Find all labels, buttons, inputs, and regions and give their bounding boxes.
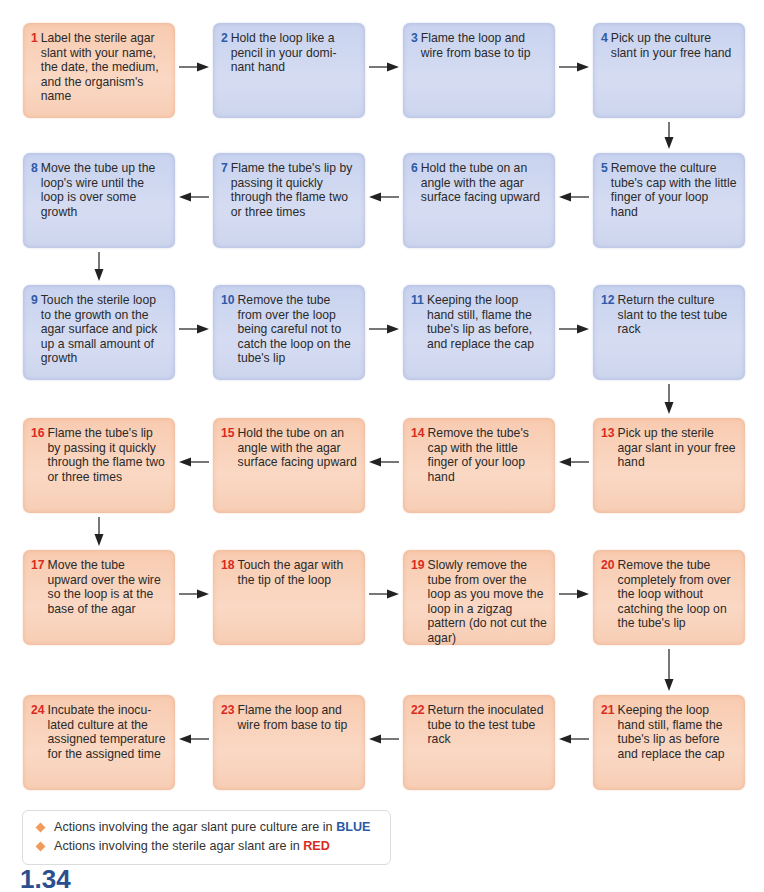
arrow-down-icon: [664, 122, 674, 149]
step-box-12: 12Return the culture slant to the test t…: [593, 285, 745, 380]
arrow-left-icon: [179, 457, 209, 467]
arrow-right-icon: [179, 589, 209, 599]
arrow-down-icon: [94, 517, 104, 546]
step-box-20: 20Remove the tube completely from over t…: [593, 550, 745, 645]
arrow-left-icon: [179, 192, 209, 202]
step-text: Keeping the loop hand still, flame the t…: [427, 293, 547, 351]
step-text: Return the culture slant to the test tub…: [618, 293, 737, 337]
legend-red-text: Actions involving the sterile agar slant…: [54, 837, 330, 856]
step-number: 11: [411, 293, 424, 308]
arrow-left-icon: [559, 457, 589, 467]
step-number: 1: [31, 31, 38, 46]
arrow-right-icon: [559, 324, 589, 334]
step-text: Keeping the loop hand still, flame the t…: [618, 703, 737, 761]
diamond-bullet-icon: [36, 842, 46, 852]
step-number: 8: [31, 161, 38, 176]
legend-blue-prefix: Actions involving the agar slant pure cu…: [54, 820, 333, 834]
arrow-right-icon: [559, 62, 589, 72]
step-box-2: 2Hold the loop like a pencil in your dom…: [213, 23, 365, 118]
step-box-21: 21Keeping the loop hand still, flame the…: [593, 695, 745, 790]
step-box-7: 7Flame the tube's lip by passing it quic…: [213, 153, 365, 248]
step-number: 2: [221, 31, 228, 46]
step-text: Label the sterile agar slant with your n…: [41, 31, 167, 104]
arrow-down-icon: [664, 649, 674, 691]
step-number: 9: [31, 293, 38, 308]
arrow-right-icon: [369, 589, 399, 599]
arrow-down-icon: [94, 252, 104, 281]
step-text: Flame the loop and wire from base to tip: [238, 703, 357, 732]
step-text: Remove the tube from over the loop being…: [238, 293, 357, 366]
step-box-16: 16Flame the tube's lip by passing it qui…: [23, 418, 175, 513]
legend-blue-text: Actions involving the agar slant pure cu…: [54, 818, 370, 837]
step-number: 24: [31, 703, 45, 718]
step-number: 16: [31, 426, 45, 441]
arrow-right-icon: [369, 62, 399, 72]
step-text: Move the tube upward over the wire so th…: [48, 558, 167, 616]
step-number: 6: [411, 161, 418, 176]
step-number: 7: [221, 161, 228, 176]
step-number: 22: [411, 703, 425, 718]
legend: Actions involving the agar slant pure cu…: [22, 810, 391, 865]
legend-row-red: Actions involving the sterile agar slant…: [37, 837, 390, 856]
step-number: 20: [601, 558, 615, 573]
arrow-left-icon: [369, 192, 399, 202]
step-number: 21: [601, 703, 615, 718]
legend-row-blue: Actions involving the agar slant pure cu…: [37, 818, 390, 837]
step-number: 17: [31, 558, 45, 573]
step-number: 18: [221, 558, 235, 573]
arrow-left-icon: [559, 734, 589, 744]
step-text: Remove the culture tube's cap with the l…: [611, 161, 737, 219]
legend-blue-keyword: BLUE: [336, 820, 370, 834]
step-text: Return the inoculated tube to the test t…: [428, 703, 547, 747]
step-number: 3: [411, 31, 418, 46]
figure-label: 1.34: [20, 866, 71, 892]
step-text: Flame the tube's lip by passing it quick…: [231, 161, 357, 219]
step-box-8: 8Move the tube up the loop's wire until …: [23, 153, 175, 248]
step-text: Hold the tube on an angle with the agar …: [421, 161, 547, 205]
step-number: 23: [221, 703, 235, 718]
step-number: 15: [221, 426, 235, 441]
step-text: Move the tube up the loop's wire until t…: [41, 161, 167, 219]
arrow-left-icon: [179, 734, 209, 744]
step-box-6: 6Hold the tube on an angle with the agar…: [403, 153, 555, 248]
step-text: Incubate the inocu-lated culture at the …: [48, 703, 167, 761]
step-number: 13: [601, 426, 615, 441]
step-box-14: 14Remove the tube's cap with the little …: [403, 418, 555, 513]
step-text: Pick up the sterile agar slant in your f…: [618, 426, 737, 470]
step-box-1: 1Label the sterile agar slant with your …: [23, 23, 175, 118]
legend-red-keyword: RED: [303, 839, 330, 853]
step-text: Remove the tube's cap with the little fi…: [428, 426, 547, 484]
arrow-right-icon: [369, 324, 399, 334]
step-text: Touch the sterile loop to the growth on …: [41, 293, 167, 366]
step-box-24: 24Incubate the inocu-lated culture at th…: [23, 695, 175, 790]
step-box-18: 18Touch the agar with the tip of the loo…: [213, 550, 365, 645]
legend-red-prefix: Actions involving the sterile agar slant…: [54, 839, 300, 853]
step-box-19: 19Slowly remove the tube from over the l…: [403, 550, 555, 645]
step-number: 10: [221, 293, 235, 308]
step-box-10: 10Remove the tube from over the loop bei…: [213, 285, 365, 380]
arrow-right-icon: [179, 62, 209, 72]
step-box-5: 5Remove the culture tube's cap with the …: [593, 153, 745, 248]
arrow-right-icon: [559, 589, 589, 599]
step-text: Hold the tube on an angle with the agar …: [238, 426, 357, 470]
arrow-right-icon: [179, 324, 209, 334]
step-box-13: 13Pick up the sterile agar slant in your…: [593, 418, 745, 513]
step-box-9: 9Touch the sterile loop to the growth on…: [23, 285, 175, 380]
step-number: 19: [411, 558, 425, 573]
step-number: 14: [411, 426, 425, 441]
arrow-left-icon: [559, 192, 589, 202]
step-box-3: 3Flame the loop and wire from base to ti…: [403, 23, 555, 118]
step-text: Flame the tube's lip by passing it quick…: [48, 426, 167, 484]
step-text: Remove the tube completely from over the…: [618, 558, 737, 631]
step-text: Flame the loop and wire from base to tip: [421, 31, 547, 60]
step-text: Touch the agar with the tip of the loop: [238, 558, 357, 587]
step-number: 5: [601, 161, 608, 176]
step-box-22: 22Return the inoculated tube to the test…: [403, 695, 555, 790]
step-box-17: 17Move the tube upward over the wire so …: [23, 550, 175, 645]
step-text: Pick up the culture slant in your free h…: [611, 31, 737, 60]
step-number: 12: [601, 293, 615, 308]
step-box-11: 11Keeping the loop hand still, flame the…: [403, 285, 555, 380]
step-text: Hold the loop like a pencil in your domi…: [231, 31, 357, 75]
step-number: 4: [601, 31, 608, 46]
arrow-left-icon: [369, 457, 399, 467]
